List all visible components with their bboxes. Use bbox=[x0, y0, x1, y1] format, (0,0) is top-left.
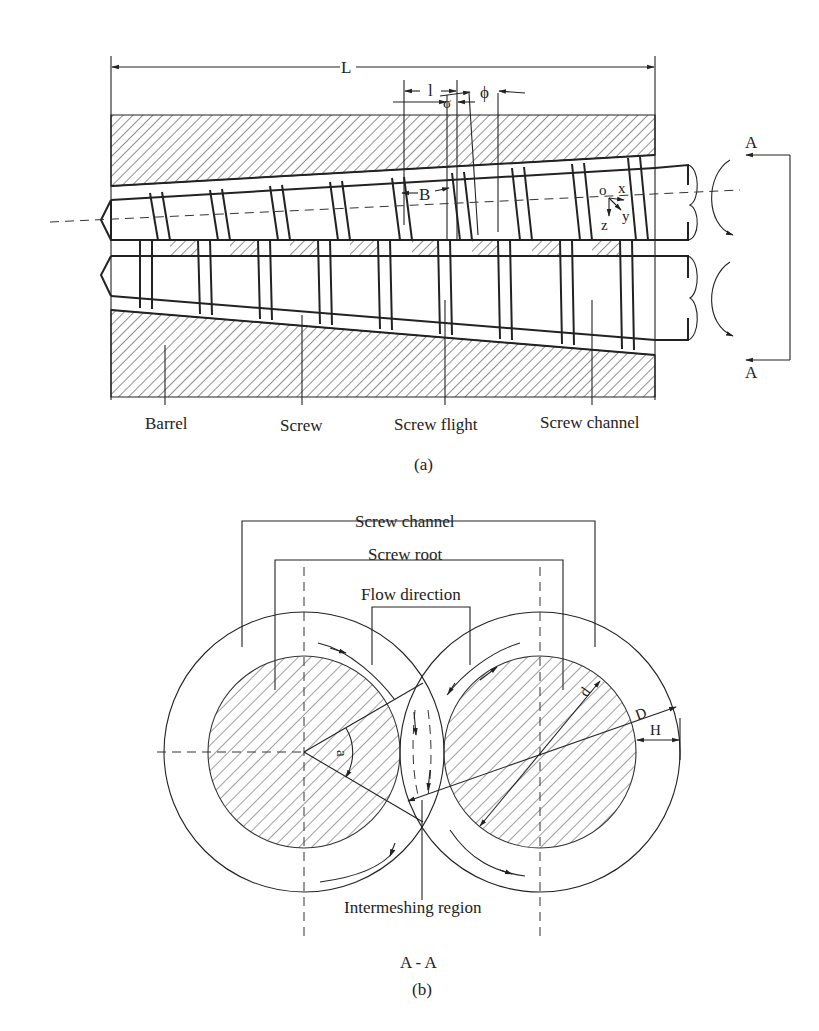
lead-label: l bbox=[428, 81, 433, 100]
y-axis-label: y bbox=[622, 208, 630, 224]
flight-width-label: σ bbox=[443, 95, 451, 111]
panel-b: Screw channel Screw root Flow direction bbox=[157, 512, 680, 999]
right-root-circle bbox=[444, 656, 636, 848]
screw-label: Screw bbox=[280, 416, 323, 435]
section-title: A - A bbox=[400, 953, 438, 972]
screw-root-label: Screw root bbox=[368, 545, 442, 564]
panel-a-caption: (a) bbox=[414, 455, 433, 474]
section-marker: A A bbox=[745, 133, 790, 382]
flow-direction-label: Flow direction bbox=[361, 585, 461, 604]
section-marker-top: A bbox=[745, 133, 758, 152]
screw-channel-bracket bbox=[242, 521, 595, 647]
coordinate-axes: o x y z bbox=[599, 180, 630, 233]
barrel-label: Barrel bbox=[145, 414, 188, 433]
screw-channel-label: Screw channel bbox=[540, 413, 640, 432]
section-marker-bottom: A bbox=[745, 363, 758, 382]
meshing-hatches bbox=[170, 241, 620, 255]
flow-direction-bracket bbox=[372, 607, 470, 665]
outer-diameter-label: D bbox=[633, 704, 649, 723]
channel-width-dimension: B bbox=[402, 185, 449, 204]
length-label: L bbox=[341, 58, 351, 77]
intermeshing-region-label: Intermeshing region bbox=[344, 898, 482, 917]
twin-screw-extruder-diagram: L l σ ϕ bbox=[0, 0, 819, 1031]
origin-label: o bbox=[599, 182, 607, 198]
angle-label: a bbox=[334, 750, 350, 757]
panel-a: L l σ ϕ bbox=[50, 56, 790, 474]
rotation-arrows bbox=[712, 160, 733, 336]
z-axis-label: z bbox=[601, 217, 608, 233]
channel-depth-dimension: H bbox=[637, 718, 680, 760]
screw-flight-label: Screw flight bbox=[394, 415, 478, 434]
channel-width-label: B bbox=[419, 185, 430, 204]
helix-angle-label: ϕ bbox=[480, 83, 489, 102]
channel-depth-label: H bbox=[650, 722, 661, 738]
x-axis-label: x bbox=[618, 180, 626, 196]
panel-b-caption: (b) bbox=[412, 980, 432, 999]
